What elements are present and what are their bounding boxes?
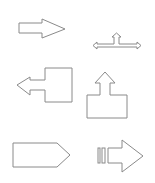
left-right-up-arrow-shape[interactable] <box>93 33 141 49</box>
striped-right-arrow-shape[interactable] <box>98 140 143 172</box>
arrow-stripe-2 <box>102 148 105 163</box>
shapes-canvas <box>0 0 155 183</box>
pentagon-shape[interactable] <box>13 143 70 167</box>
left-arrow-callout-shape[interactable] <box>17 68 72 102</box>
up-arrow-callout-shape[interactable] <box>87 72 127 118</box>
right-arrow-shape[interactable] <box>19 19 65 38</box>
striped-arrow-body[interactable] <box>108 140 143 172</box>
arrow-stripe-1 <box>98 148 100 163</box>
